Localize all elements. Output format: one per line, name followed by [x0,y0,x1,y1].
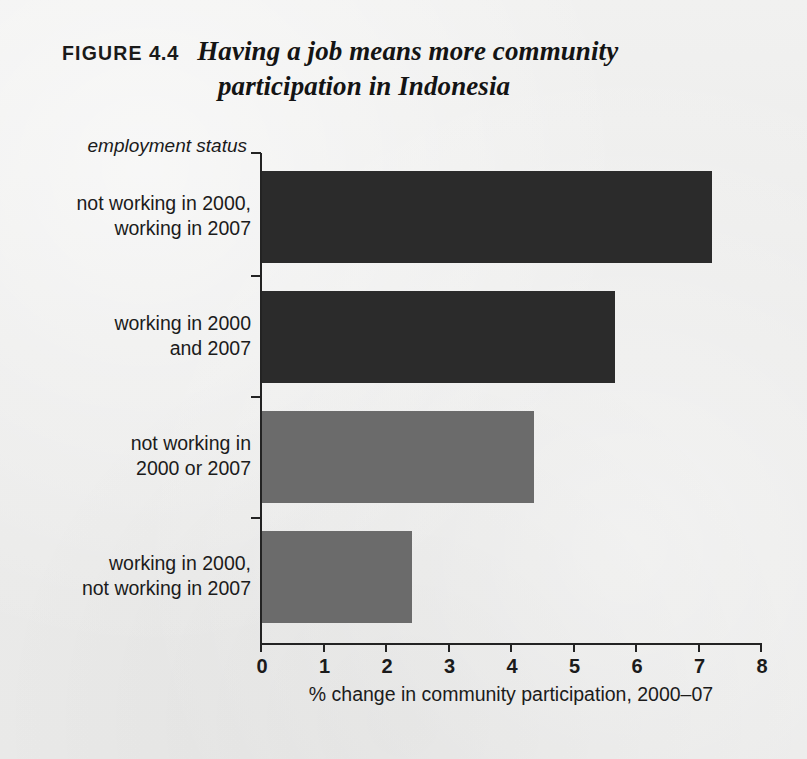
x-axis-tick-7 [698,643,700,652]
category-label-0: not working in 2000, working in 2007 [0,191,251,242]
x-axis-tick-2 [385,643,387,652]
x-axis-tick-label-2: 2 [367,655,407,678]
x-axis-tick-1 [323,643,325,652]
bar-working-2000-not-working-2007 [262,531,412,623]
bar-chart-plot-area: employment status not working in 2000, w… [0,0,807,759]
x-axis-tick-6 [635,643,637,652]
x-axis-title: % change in community participation, 200… [261,683,761,706]
y-axis-title: employment status [0,135,247,157]
category-label-2: not working in 2000 or 2007 [0,431,251,482]
x-axis-tick-label-6: 6 [617,655,657,678]
x-axis-tick-label-3: 3 [430,655,470,678]
x-axis-tick-4 [510,643,512,652]
x-axis-tick-5 [573,643,575,652]
x-axis-tick-label-8: 8 [742,655,782,678]
category-label-0-line-2: working in 2007 [114,217,251,239]
y-axis-tick [251,396,261,398]
x-axis-tick-label-0: 0 [242,655,282,678]
category-label-1-line-1: working in 2000 [114,312,251,334]
category-label-2-line-2: 2000 or 2007 [136,457,251,479]
category-label-2-line-1: not working in [131,432,251,454]
x-axis-tick-label-5: 5 [555,655,595,678]
x-axis-tick-label-1: 1 [305,655,345,678]
figure-container: FIGURE 4.4 Having a job means more commu… [0,0,807,759]
y-axis-tick [251,152,261,154]
category-label-1: working in 2000 and 2007 [0,311,251,362]
bar-not-working-2000-or-2007 [262,411,534,503]
category-label-3-line-2: not working in 2007 [82,577,251,599]
category-label-3: working in 2000, not working in 2007 [0,551,251,602]
bar-not-working-2000-working-2007 [262,171,712,263]
bar-working-2000-and-2007 [262,291,615,383]
category-label-1-line-2: and 2007 [170,337,251,359]
y-axis-tick [251,517,261,519]
x-axis-tick-label-7: 7 [680,655,720,678]
y-axis-tick [251,275,261,277]
x-axis-tick-0 [260,643,262,652]
x-axis-tick-8 [760,643,762,652]
category-label-3-line-1: working in 2000, [109,552,251,574]
x-axis-tick-3 [448,643,450,652]
x-axis-tick-label-4: 4 [492,655,532,678]
category-label-0-line-1: not working in 2000, [76,192,251,214]
